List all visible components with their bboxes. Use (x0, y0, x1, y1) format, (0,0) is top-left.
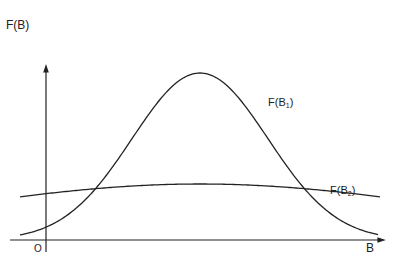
x-axis-arrow-icon (378, 238, 384, 242)
curve-f-b1 (20, 73, 378, 235)
origin-label: O (34, 243, 42, 254)
label-text: F(B (330, 184, 348, 196)
legend-f-b2: F(B2) (330, 184, 355, 197)
x-axis-label: B (366, 241, 374, 255)
y-axis-label: F(B) (6, 18, 29, 32)
label-close: ) (352, 184, 356, 196)
label-close: ) (290, 96, 294, 108)
label-text: F(B (268, 96, 286, 108)
curve-f-b2 (20, 184, 380, 197)
axes (10, 66, 384, 252)
legend-f-b1: F(B1) (268, 96, 293, 109)
chart-plot (0, 0, 397, 257)
y-axis-arrow-icon (44, 66, 48, 72)
